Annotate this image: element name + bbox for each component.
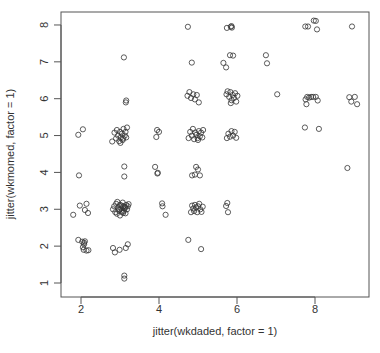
- y-axis-title: jitter(wkmomed, factor = 1): [4, 89, 16, 221]
- y-tick-label: 2: [38, 243, 50, 249]
- x-tick-label: 6: [234, 303, 240, 315]
- y-tick-label: 6: [38, 96, 50, 102]
- x-axis-title: jitter(wkdaded, factor = 1): [152, 325, 277, 337]
- y-tick-label: 3: [38, 206, 50, 212]
- y-tick-label: 5: [38, 132, 50, 138]
- y-tick-label: 7: [38, 59, 50, 65]
- x-tick-label: 4: [156, 303, 162, 315]
- y-tick-label: 1: [38, 280, 50, 286]
- x-tick-label: 8: [312, 303, 318, 315]
- x-tick-label: 2: [78, 303, 84, 315]
- y-tick-label: 4: [38, 169, 50, 175]
- scatter-plot: 2468 12345678 jitter(wkdaded, factor = 1…: [0, 0, 380, 353]
- y-tick-label: 8: [38, 22, 50, 28]
